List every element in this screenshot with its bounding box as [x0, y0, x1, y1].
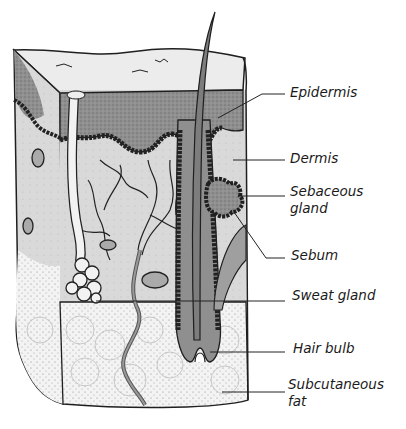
skin-diagram: Epidermis Dermis Sebaceous gland Sebum S…	[0, 0, 406, 429]
label-subcutaneous-fat-line2: fat	[288, 393, 306, 410]
label-subcutaneous-fat-line1: Subcutaneous	[288, 376, 384, 393]
label-hair-bulb: Hair bulb	[293, 340, 354, 357]
label-sebaceous-gland-line2: gland	[290, 200, 328, 217]
label-dermis: Dermis	[290, 150, 338, 167]
label-sebaceous-gland-line1: Sebaceous	[290, 183, 363, 200]
label-sebum: Sebum	[291, 247, 338, 264]
label-sweat-gland: Sweat gland	[292, 287, 376, 304]
skin-cross-section-illustration	[0, 0, 406, 429]
label-epidermis: Epidermis	[290, 84, 357, 101]
